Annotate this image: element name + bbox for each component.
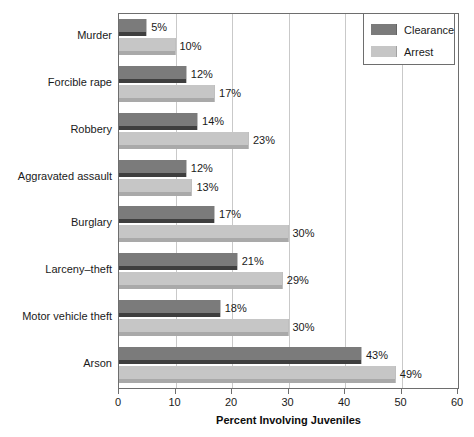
- bar-value-label: 30%: [293, 225, 315, 242]
- bar-value-label: 17%: [219, 85, 241, 102]
- bar-clearance: [119, 66, 187, 83]
- x-tick-label: 50: [394, 396, 406, 408]
- bar-arrest: [119, 366, 396, 383]
- bar-arrest: [119, 85, 215, 102]
- category-label: Murder: [0, 29, 112, 41]
- bar-clearance: [119, 347, 362, 364]
- bar-face: [119, 179, 191, 192]
- bar-clearance: [119, 160, 187, 177]
- category-label: Burglary: [0, 216, 112, 228]
- bar-arrest: [119, 225, 289, 242]
- bar-shadow: [119, 332, 288, 336]
- bar-face: [119, 319, 288, 332]
- legend-label-clearance: Clearance: [404, 24, 454, 36]
- bar-face: [119, 85, 214, 98]
- x-axis: 0102030405060: [118, 389, 459, 390]
- bar-face: [119, 272, 282, 285]
- bar-face: [119, 206, 214, 219]
- bar-arrest: [119, 38, 176, 55]
- bar-value-label: 30%: [293, 319, 315, 336]
- bar-face: [119, 225, 288, 238]
- category-label: Motor vehicle theft: [0, 310, 112, 322]
- bar-shadow: [119, 238, 288, 242]
- legend-item-clearance: Clearance: [371, 21, 448, 38]
- bar-shadow: [119, 313, 220, 317]
- bar-face: [119, 132, 248, 145]
- x-tick: [231, 389, 232, 394]
- bar-shadow: [119, 266, 237, 270]
- category-label: Forcible rape: [0, 76, 112, 88]
- gridline: [402, 14, 403, 388]
- bar-face: [119, 113, 197, 126]
- bar-shadow: [119, 98, 214, 102]
- legend-item-arrest: Arrest: [371, 43, 448, 60]
- bar-shadow: [119, 126, 197, 130]
- bar-shadow: [119, 173, 186, 177]
- bar-value-label: 23%: [253, 132, 275, 149]
- bar-value-label: 21%: [242, 253, 264, 270]
- bar-value-label: 49%: [400, 366, 422, 383]
- x-tick-label: 0: [115, 396, 121, 408]
- bar-shadow: [119, 379, 395, 383]
- bar-value-label: 18%: [225, 300, 247, 317]
- bar-value-label: 12%: [191, 160, 213, 177]
- bar-face: [119, 160, 186, 173]
- bar-shadow: [119, 79, 186, 83]
- legend-swatch-arrest: [371, 46, 397, 57]
- bar-value-label: 14%: [202, 113, 224, 130]
- bar-value-label: 12%: [191, 66, 213, 83]
- x-tick-label: 30: [281, 396, 293, 408]
- bar-value-label: 17%: [219, 206, 241, 223]
- bar-value-label: 43%: [366, 347, 388, 364]
- bar-clearance: [119, 113, 198, 130]
- bar-chart: MurderForcible rapeRobberyAggravated ass…: [0, 0, 474, 437]
- category-label: Arson: [0, 357, 112, 369]
- bar-value-label: 29%: [287, 272, 309, 289]
- bar-arrest: [119, 132, 249, 149]
- bar-value-label: 13%: [196, 179, 218, 196]
- bar-shadow: [119, 32, 146, 36]
- bar-face: [119, 366, 395, 379]
- x-axis-title: Percent Involving Juveniles: [118, 414, 459, 426]
- x-tick: [118, 389, 119, 394]
- category-label: Robbery: [0, 123, 112, 135]
- bar-shadow: [119, 285, 282, 289]
- bar-clearance: [119, 206, 215, 223]
- bar-face: [119, 253, 237, 266]
- chart-legend: Clearance Arrest: [363, 13, 455, 65]
- x-tick-label: 10: [168, 396, 180, 408]
- bar-shadow: [119, 145, 248, 149]
- bar-face: [119, 300, 220, 313]
- bar-clearance: [119, 19, 147, 36]
- bar-shadow: [119, 360, 361, 364]
- bar-face: [119, 66, 186, 79]
- category-axis: MurderForcible rapeRobberyAggravated ass…: [0, 13, 112, 389]
- bar-face: [119, 347, 361, 360]
- bar-face: [119, 19, 146, 32]
- gridline: [289, 14, 290, 388]
- bar-value-label: 5%: [151, 19, 167, 36]
- plot-area: 5%10%12%17%14%23%12%13%17%30%21%29%18%30…: [118, 13, 459, 389]
- bar-arrest: [119, 319, 289, 336]
- bar-shadow: [119, 219, 214, 223]
- x-tick: [175, 389, 176, 394]
- x-tick-label: 40: [338, 396, 350, 408]
- category-label: Aggravated assault: [0, 170, 112, 182]
- bar-value-label: 10%: [180, 38, 202, 55]
- bar-shadow: [119, 192, 191, 196]
- legend-label-arrest: Arrest: [404, 46, 433, 58]
- x-tick-label: 20: [225, 396, 237, 408]
- bar-face: [119, 38, 175, 51]
- bar-arrest: [119, 179, 192, 196]
- bar-clearance: [119, 253, 238, 270]
- bar-clearance: [119, 300, 221, 317]
- x-tick-label: 60: [451, 396, 463, 408]
- x-tick: [401, 389, 402, 394]
- x-tick: [344, 389, 345, 394]
- category-label: Larceny–theft: [0, 263, 112, 275]
- x-tick: [288, 389, 289, 394]
- gridline: [345, 14, 346, 388]
- legend-swatch-clearance: [371, 24, 397, 35]
- bar-shadow: [119, 51, 175, 55]
- x-tick: [457, 389, 458, 394]
